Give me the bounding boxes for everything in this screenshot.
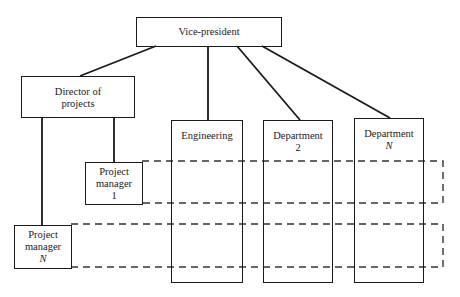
department-2-label-line2: 2 xyxy=(264,142,332,154)
pm-n-label-line2: manager xyxy=(15,241,71,253)
pm-n-label-line3: N xyxy=(15,253,71,265)
department-n-label-line1: Department xyxy=(355,128,423,140)
pm-1-label-line1: Project xyxy=(86,166,142,178)
director-label-line2: projects xyxy=(22,98,134,110)
vice-president-box: Vice-president xyxy=(136,17,282,47)
department-2-box: Department 2 xyxy=(263,120,333,283)
project-manager-1-box: Project manager 1 xyxy=(85,162,143,205)
director-of-projects-box: Director of projects xyxy=(21,76,135,118)
engineering-box: Engineering xyxy=(171,120,243,283)
pm-1-label-line3: 1 xyxy=(86,190,142,202)
pm-1-label-line2: manager xyxy=(86,178,142,190)
department-2-label-line1: Department xyxy=(264,130,332,142)
department-n-label-line2: N xyxy=(355,140,423,152)
pm-n-label-line1: Project xyxy=(15,229,71,241)
vice-president-label: Vice-president xyxy=(137,26,281,38)
director-label-line1: Director of xyxy=(22,86,134,98)
engineering-label: Engineering xyxy=(172,130,242,142)
department-n-box: Department N xyxy=(354,118,424,283)
project-manager-n-box: Project manager N xyxy=(14,225,72,269)
